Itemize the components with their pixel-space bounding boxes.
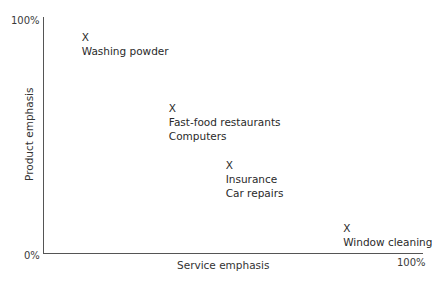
x-marker-icon: X <box>226 158 284 172</box>
origin-tick: 0% <box>24 250 40 261</box>
point-label: Computers <box>169 129 281 143</box>
x-marker-icon: X <box>343 221 432 235</box>
data-point: XWashing powder <box>82 30 169 58</box>
y-axis-title: Product emphasis <box>23 91 35 181</box>
x-axis-line <box>43 253 423 254</box>
x-marker-icon: X <box>82 30 169 44</box>
point-label: Insurance <box>226 172 284 186</box>
y-axis-line <box>43 17 44 254</box>
x-max-tick: 100% <box>397 257 426 268</box>
point-label: Car repairs <box>226 186 284 200</box>
point-label: Window cleaning <box>343 235 432 249</box>
point-label: Fast-food restaurants <box>169 115 281 129</box>
data-point: XFast-food restaurantsComputers <box>169 101 281 143</box>
data-point: XInsuranceCar repairs <box>226 158 284 200</box>
y-max-tick: 100% <box>11 15 40 26</box>
x-marker-icon: X <box>169 101 281 115</box>
point-label: Washing powder <box>82 44 169 58</box>
x-axis-title: Service emphasis <box>177 259 269 271</box>
data-point: XWindow cleaning <box>343 221 432 249</box>
